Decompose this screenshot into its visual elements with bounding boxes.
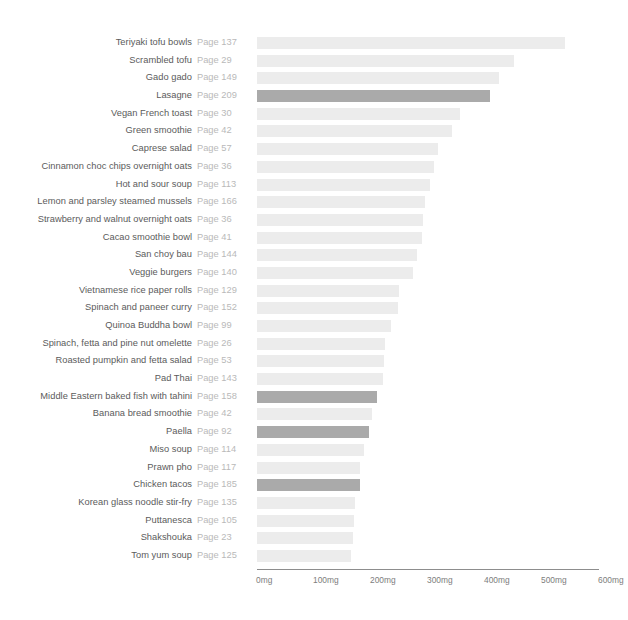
row-bar-track [257,408,628,420]
row-bar-track [257,214,628,226]
chart-row[interactable]: Veggie burgersPage 140 [0,266,628,284]
row-bar-track [257,338,628,350]
row-recipe-label: Spinach, fetta and pine nut omelette [0,337,192,350]
chart-row[interactable]: Hot and sour soupPage 113 [0,178,628,196]
row-bar[interactable] [257,249,417,261]
chart-row[interactable]: Scrambled tofuPage 29 [0,54,628,72]
chart-row[interactable]: Miso soupPage 114 [0,443,628,461]
chart-row[interactable]: Chicken tacosPage 185 [0,478,628,496]
row-bar[interactable] [257,214,423,226]
row-bar[interactable] [257,373,383,385]
chart-row[interactable]: Gado gadoPage 149 [0,71,628,89]
row-recipe-label: Roasted pumpkin and fetta salad [0,354,192,367]
row-bar-highlighted[interactable] [257,479,360,491]
x-axis-tick-label: 0mg [256,575,272,586]
chart-row[interactable]: Cinnamon choc chips overnight oatsPage 3… [0,160,628,178]
row-bar[interactable] [257,497,355,509]
chart-row[interactable]: Spinach, fetta and pine nut omelettePage… [0,337,628,355]
row-bar[interactable] [257,179,430,191]
row-bar[interactable] [257,37,565,49]
row-bar-highlighted[interactable] [257,90,490,102]
chart-row[interactable]: Spinach and paneer curryPage 152 [0,301,628,319]
row-page-reference: Page 36 [197,160,232,173]
row-page-reference: Page 209 [197,89,237,102]
row-recipe-label: Prawn pho [0,461,192,474]
chart-row[interactable]: Quinoa Buddha bowlPage 99 [0,319,628,337]
chart-row[interactable]: San choy bauPage 144 [0,248,628,266]
row-bar[interactable] [257,196,425,208]
chart-row[interactable]: LasagnePage 209 [0,89,628,107]
row-page-reference: Page 144 [197,248,237,261]
row-bar-track [257,143,628,155]
chart-row[interactable]: Prawn phoPage 117 [0,461,628,479]
x-axis-tick-label: 600mg [598,575,624,586]
row-bar[interactable] [257,125,452,137]
x-axis-tick-label: 300mg [427,575,453,586]
chart-row[interactable]: Vietnamese rice paper rollsPage 129 [0,284,628,302]
chart-row[interactable]: Cacao smoothie bowlPage 41 [0,231,628,249]
row-bar[interactable] [257,338,385,350]
chart-row[interactable]: Tom yum soupPage 125 [0,549,628,567]
row-bar[interactable] [257,462,360,474]
chart-row[interactable]: Korean glass noodle stir-fryPage 135 [0,496,628,514]
chart-row[interactable]: Banana bread smoothiePage 42 [0,407,628,425]
chart-row[interactable]: PuttanescaPage 105 [0,514,628,532]
row-recipe-label: Banana bread smoothie [0,407,192,420]
row-bar[interactable] [257,285,399,297]
chart-row[interactable]: PaellaPage 92 [0,425,628,443]
row-page-reference: Page 42 [197,124,232,137]
chart-row[interactable]: Lemon and parsley steamed musselsPage 16… [0,195,628,213]
row-bar[interactable] [257,72,499,84]
chart-row[interactable]: Middle Eastern baked fish with tahiniPag… [0,390,628,408]
row-bar[interactable] [257,532,353,544]
row-page-reference: Page 149 [197,71,237,84]
row-bar-highlighted[interactable] [257,426,369,438]
chart-row[interactable]: Pad ThaiPage 143 [0,372,628,390]
chart-row[interactable]: ShakshoukaPage 23 [0,531,628,549]
row-page-reference: Page 41 [197,231,232,244]
row-bar[interactable] [257,408,372,420]
row-page-reference: Page 105 [197,514,237,527]
row-page-reference: Page 158 [197,390,237,403]
chart-row[interactable]: Vegan French toastPage 30 [0,107,628,125]
row-bar[interactable] [257,302,398,314]
row-bar[interactable] [257,355,384,367]
row-recipe-label: San choy bau [0,248,192,261]
row-bar[interactable] [257,143,438,155]
row-bar-track [257,355,628,367]
row-bar[interactable] [257,55,514,67]
chart-row[interactable]: Strawberry and walnut overnight oatsPage… [0,213,628,231]
row-recipe-label: Cinnamon choc chips overnight oats [0,160,192,173]
row-recipe-label: Vietnamese rice paper rolls [0,284,192,297]
row-page-reference: Page 30 [197,107,232,120]
row-page-reference: Page 117 [197,461,236,474]
chart-row[interactable]: Roasted pumpkin and fetta saladPage 53 [0,354,628,372]
row-recipe-label: Korean glass noodle stir-fry [0,496,192,509]
row-recipe-label: Vegan French toast [0,107,192,120]
row-page-reference: Page 36 [197,213,232,226]
row-recipe-label: Miso soup [0,443,192,456]
row-recipe-label: Teriyaki tofu bowls [0,36,192,49]
x-axis-tick-label: 200mg [370,575,396,586]
row-bar-track [257,444,628,456]
row-bar[interactable] [257,550,351,562]
row-bar[interactable] [257,444,364,456]
row-bar-highlighted[interactable] [257,391,377,403]
row-page-reference: Page 57 [197,142,232,155]
chart-row[interactable]: Teriyaki tofu bowlsPage 137 [0,36,628,54]
row-bar-track [257,37,628,49]
row-bar[interactable] [257,232,422,244]
row-bar[interactable] [257,320,391,332]
chart-row[interactable]: Caprese saladPage 57 [0,142,628,160]
row-bar[interactable] [257,515,354,527]
row-bar-track [257,161,628,173]
row-bar-track [257,426,628,438]
row-bar[interactable] [257,267,413,279]
row-bar[interactable] [257,161,434,173]
row-page-reference: Page 185 [197,478,237,491]
row-page-reference: Page 26 [197,337,232,350]
row-page-reference: Page 114 [197,443,236,456]
row-bar[interactable] [257,108,460,120]
row-page-reference: Page 99 [197,319,232,332]
chart-row[interactable]: Green smoothiePage 42 [0,124,628,142]
